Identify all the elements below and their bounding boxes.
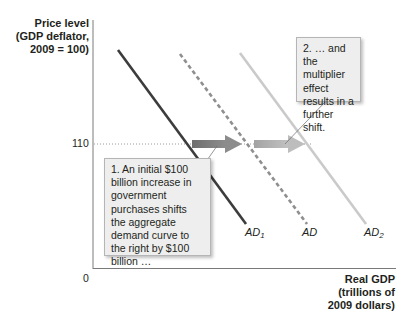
initial-shift-arrow — [192, 135, 242, 153]
y-axis-label-line-1: Price level — [16, 17, 89, 30]
y-axis-label: Price level (GDP deflator, 2009 = 100) — [16, 17, 89, 56]
multiplier-shift-arrow — [254, 135, 305, 153]
y-axis-label-line-2: (GDP deflator, — [16, 30, 89, 43]
x-axis-label-line-1: Real GDP — [328, 273, 395, 286]
curve-label-ad2-main: AD — [364, 226, 379, 238]
curve-label-ad-main: AD — [302, 226, 317, 238]
x-axis-label-line-2: (trillions of — [328, 286, 395, 299]
origin-label: 0 — [83, 272, 89, 284]
y-tick-110: 110 — [72, 137, 89, 149]
curve-label-ad2-sub: 2 — [379, 231, 383, 240]
curve-label-ad1-main: AD — [245, 226, 260, 238]
callout-multiplier-effect: 2. … and the multiplier effect results i… — [296, 37, 361, 102]
x-axis-label: Real GDP (trillions of 2009 dollars) — [328, 273, 395, 312]
curve-label-ad1-sub: 1 — [260, 231, 264, 240]
y-axis-label-line-3: 2009 = 100) — [16, 43, 89, 56]
callout-initial-increase: 1. An initial $100 billion increase in g… — [104, 158, 211, 256]
curve-label-ad: AD — [302, 226, 317, 238]
x-axis-label-line-3: 2009 dollars) — [328, 299, 395, 312]
curve-label-ad1: AD1 — [245, 226, 265, 240]
curve-label-ad2: AD2 — [364, 226, 384, 240]
